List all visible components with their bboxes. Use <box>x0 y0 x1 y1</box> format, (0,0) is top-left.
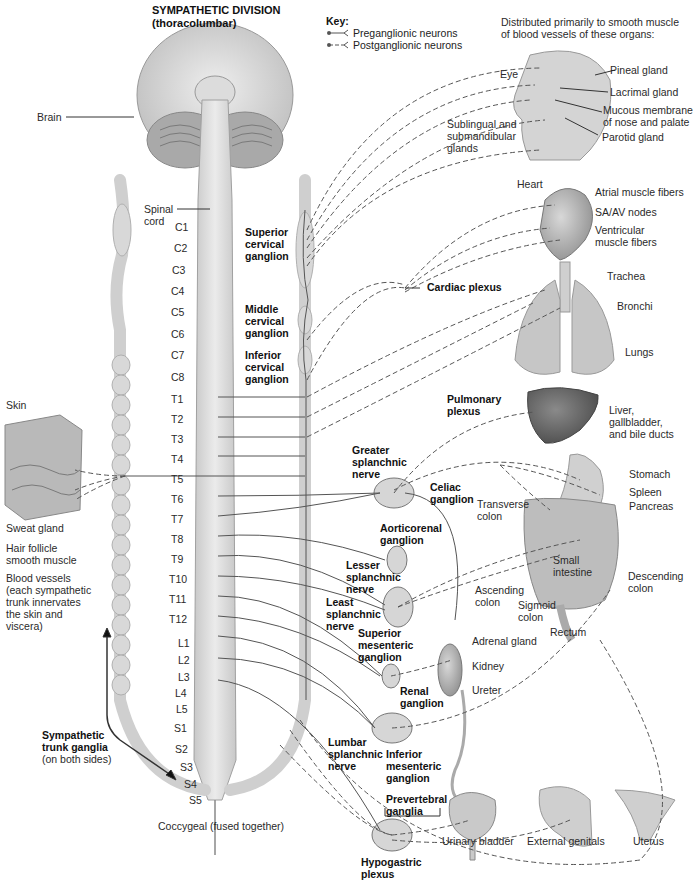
label-line: intestine <box>553 566 592 578</box>
label-line: Hair follicle <box>6 542 77 554</box>
kidney-illustration <box>438 644 465 800</box>
segment-t2: T2 <box>171 413 183 425</box>
distribution-note: Distributed primarily to smooth muscle o… <box>501 16 679 40</box>
label-cardiac-plexus: Cardiac plexus <box>427 281 502 293</box>
segment-l3: L3 <box>178 671 190 683</box>
label-line: colon <box>475 596 524 608</box>
left-sympathetic-trunk <box>112 180 205 790</box>
label-aorticorenal-ganglion: Aorticorenal ganglion <box>380 522 442 546</box>
label-line: Inferior <box>386 748 441 760</box>
segment-s2: S2 <box>175 743 188 755</box>
segment-s4: S4 <box>184 778 197 790</box>
label-line: ganglion <box>430 493 474 505</box>
label-pineal-gland: Pineal gland <box>610 64 668 76</box>
solid-line-icon <box>326 29 350 37</box>
label-hypogastric-plexus: Hypogastric plexus <box>361 856 422 880</box>
label-ureter: Ureter <box>472 684 501 696</box>
label-spleen: Spleen <box>629 486 662 498</box>
label-line: Sublingual and <box>447 118 516 130</box>
label-line: Sigmoid <box>518 599 556 611</box>
label-line: Superior <box>358 627 413 639</box>
label-pulmonary-plexus: Pulmonary plexus <box>447 393 501 417</box>
segment-t6: T6 <box>171 493 183 505</box>
label-adrenal-gland: Adrenal gland <box>472 635 537 647</box>
segment-c7: C7 <box>171 349 184 361</box>
label-line: Liver, <box>609 404 674 416</box>
label-line: plexus <box>447 405 501 417</box>
legend: Key: Preganglionic neurons Postganglioni… <box>326 15 462 51</box>
label-line: Ascending <box>475 584 524 596</box>
segment-t12: T12 <box>169 613 187 625</box>
label-trachea: Trachea <box>607 270 645 282</box>
label-line: Small <box>553 554 592 566</box>
label-line: colon <box>477 510 529 522</box>
segment-s1: S1 <box>174 722 187 734</box>
label-greater-splanchnic-nerve: Greater splanchnic nerve <box>352 444 407 480</box>
label-line: ganglion <box>400 697 444 709</box>
label-brain: Brain <box>37 111 62 123</box>
label-line: cord <box>144 215 173 227</box>
label-transverse-colon: Transverse colon <box>477 498 529 522</box>
label-rectum: Rectum <box>550 626 586 638</box>
label-line: cervical <box>245 361 289 373</box>
label-line: Lesser <box>346 559 401 571</box>
label-urinary-bladder: Urinary bladder <box>442 835 514 847</box>
label-line: ganglion <box>245 327 289 339</box>
label-atrial-muscle-fibers: Atrial muscle fibers <box>595 186 684 198</box>
title-main: SYMPATHETIC DIVISION <box>152 4 281 17</box>
label-line: ganglia <box>386 805 447 817</box>
label-line: muscle fibers <box>595 236 657 248</box>
diagram-title: SYMPATHETIC DIVISION (thoracolumbar) <box>152 4 281 30</box>
lungs-illustration <box>515 262 614 374</box>
label-line: Lumbar <box>328 736 383 748</box>
segment-c4: C4 <box>171 285 184 297</box>
label-sweat-gland: Sweat gland <box>6 522 64 534</box>
dashed-line-icon <box>326 41 350 49</box>
segment-t9: T9 <box>171 553 183 565</box>
label-line: splanchnic <box>328 748 383 760</box>
segment-l2: L2 <box>178 654 190 666</box>
label-hair-follicle: Hair follicle smooth muscle <box>6 542 77 566</box>
label-lungs: Lungs <box>625 346 654 358</box>
label-line: Greater <box>352 444 407 456</box>
label-line: Aorticorenal <box>380 522 442 534</box>
segment-l1: L1 <box>178 637 190 649</box>
note-line: of blood vessels of these organs: <box>501 28 679 40</box>
label-pancreas: Pancreas <box>629 500 673 512</box>
label-kidney: Kidney <box>472 660 504 672</box>
label-line: nerve <box>346 583 401 595</box>
label-bronchi: Bronchi <box>617 300 653 312</box>
label-line: Transverse <box>477 498 529 510</box>
segment-c8: C8 <box>171 371 184 383</box>
segment-t3: T3 <box>171 433 183 445</box>
label-mucous-membrane: Mucous membrane of nose and palate <box>603 104 693 128</box>
legend-label: Preganglionic neurons <box>353 27 458 39</box>
label-sublingual-glands: Sublingual and submandibular glands <box>447 118 516 154</box>
segment-l5: L5 <box>176 703 188 715</box>
label-line: ganglion <box>380 534 442 546</box>
label-line: nerve <box>352 468 407 480</box>
label-uterus: Uterus <box>633 835 664 847</box>
label-skin: Skin <box>6 399 26 411</box>
spinal-cord-illustration <box>194 100 236 855</box>
legend-item-postganglionic: Postganglionic neurons <box>326 39 462 51</box>
label-coccygeal: Coccygeal (fused together) <box>158 820 284 832</box>
label-ascending-colon: Ascending colon <box>475 584 524 608</box>
label-line: Spinal <box>144 203 173 215</box>
label-liver: Liver, gallbladder, and bile ducts <box>609 404 674 440</box>
label-line: trunk innervates <box>6 596 91 608</box>
label-descending-colon: Descending colon <box>628 570 683 594</box>
heart-illustration <box>540 189 593 260</box>
label-line: ganglion <box>386 772 441 784</box>
label-superior-mesenteric-ganglion: Superior mesenteric ganglion <box>358 627 413 663</box>
right-sympathetic-trunk <box>230 180 314 790</box>
label-lesser-splanchnic-nerve: Lesser splanchnic nerve <box>346 559 401 595</box>
label-lumbar-splanchnic-nerve: Lumbar splanchnic nerve <box>328 736 383 772</box>
segment-t4: T4 <box>171 453 183 465</box>
label-prevertebral-ganglia: Prevertebral ganglia <box>386 793 447 817</box>
label-blood-vessels: Blood vessels (each sympathetic trunk in… <box>6 572 91 632</box>
label-line: mesenteric <box>358 639 413 651</box>
segment-c5: C5 <box>171 306 184 318</box>
label-line: Hypogastric <box>361 856 422 868</box>
label-line: splanchnic <box>326 608 381 620</box>
